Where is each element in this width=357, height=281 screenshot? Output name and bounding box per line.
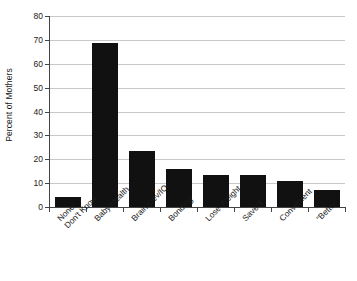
x-tick-mark (234, 207, 235, 212)
gridline (50, 16, 345, 17)
x-tick-mark (197, 207, 198, 212)
x-tick-mark (123, 207, 124, 212)
y-axis-title: Percent of Mothers (0, 0, 18, 210)
bar (92, 43, 118, 207)
x-tick-label: None/Don't Know (55, 186, 99, 230)
y-tick-label: 60 (34, 59, 43, 69)
plot-area: 01020304050607080 None/Don't KnowBaby He… (49, 16, 345, 207)
y-tick-mark (45, 88, 49, 89)
y-axis-title-text: Percent of Mothers (4, 68, 14, 142)
y-tick-label: 80 (34, 11, 43, 21)
x-tick-mark (345, 207, 346, 212)
y-tick-label: 50 (34, 83, 43, 93)
y-tick-label: 30 (34, 130, 43, 140)
y-tick-label: 70 (34, 35, 43, 45)
y-tick-mark (45, 183, 49, 184)
y-tick-mark (45, 64, 49, 65)
y-tick-label: 0 (38, 202, 43, 212)
y-tick-mark (45, 40, 49, 41)
x-tick-mark (271, 207, 272, 212)
bar-chart-figure: Percent of Mothers 01020304050607080 Non… (0, 0, 357, 281)
y-tick-mark (45, 159, 49, 160)
y-tick-mark (45, 135, 49, 136)
x-tick-mark (308, 207, 309, 212)
y-tick-label: 40 (34, 107, 43, 117)
gridline (50, 40, 345, 41)
x-tick-mark (49, 207, 50, 212)
y-tick-mark (45, 112, 49, 113)
y-tick-label: 20 (34, 154, 43, 164)
y-tick-label: 10 (34, 178, 43, 188)
x-tick-mark (160, 207, 161, 212)
y-tick-mark (45, 16, 49, 17)
